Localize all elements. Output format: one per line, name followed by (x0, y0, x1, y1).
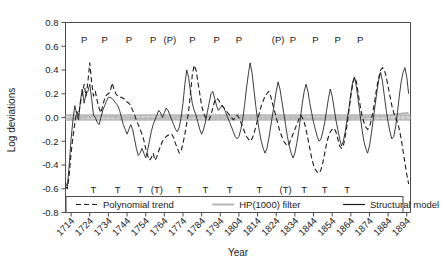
y-tick-label: 0.6 (45, 41, 58, 52)
legend-label: Polynomial trend (103, 199, 174, 210)
peak-marker: P (150, 34, 156, 45)
peak-marker: P (312, 34, 318, 45)
peak-marker: P (213, 34, 219, 45)
y-tick-label: 0.4 (45, 64, 58, 75)
trough-marker: T (137, 184, 143, 195)
trough-marker: (T) (151, 184, 163, 195)
peak-marker: (P) (272, 34, 285, 45)
peak-marker: P (290, 34, 296, 45)
trough-marker: T (257, 184, 263, 195)
peak-marker: P (81, 34, 87, 45)
trough-marker: T (322, 184, 328, 195)
trough-marker: (T) (279, 184, 291, 195)
y-tick-label: 0.2 (45, 88, 58, 99)
peak-marker: P (236, 34, 242, 45)
chart-canvas: 0.80.60.40.20.0-0.2-0.4-0.6-0.8 17141724… (0, 0, 442, 267)
trough-marker: T (301, 184, 307, 195)
peak-marker: (P) (164, 34, 177, 45)
x-axis-title: Year (228, 247, 249, 258)
y-tick-label: 0.8 (45, 17, 58, 28)
trough-marker: T (344, 184, 350, 195)
legend-label: HP(1000) filter (239, 199, 300, 210)
trough-marker: T (227, 184, 233, 195)
y-tick-label: -0.2 (42, 136, 58, 147)
peak-marker: P (335, 34, 341, 45)
trough-marker: T (115, 184, 121, 195)
peak-marker: P (189, 34, 195, 45)
chart-legend: Polynomial trendHP(1000) filterStructura… (66, 197, 439, 213)
y-tick-label: 0.0 (45, 112, 58, 123)
y-tick-label: -0.6 (42, 183, 58, 194)
peak-marker: P (126, 34, 132, 45)
legend-label: Structural model (370, 199, 439, 210)
y-tick-label: -0.4 (42, 159, 58, 170)
peak-marker: P (101, 34, 107, 45)
chart-figure: 0.80.60.40.20.0-0.2-0.4-0.6-0.8 17141724… (0, 0, 442, 267)
y-tick-label: -0.8 (42, 207, 58, 218)
trough-marker: T (176, 184, 182, 195)
trough-marker: T (202, 184, 208, 195)
y-axis-title: Log deviations (6, 88, 17, 153)
peak-marker: P (357, 34, 363, 45)
trough-marker: T (91, 184, 97, 195)
